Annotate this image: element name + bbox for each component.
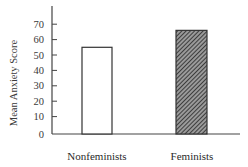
bar-feminists — [176, 30, 207, 134]
category-label-feminists: Feminists — [171, 150, 214, 162]
category-labels: NonfeministsFeminists — [67, 150, 213, 162]
category-label-nonfeminists: Nonfeminists — [67, 150, 126, 162]
y-axis-label: Mean Anxiety Score — [8, 40, 19, 127]
bars — [82, 30, 207, 134]
y-tick-label: 20 — [34, 96, 45, 107]
bar-chart: Mean Anxiety Score 010203040506070 Nonfe… — [0, 0, 248, 167]
y-tick-label: 40 — [34, 65, 45, 76]
y-tick-label: 50 — [34, 50, 45, 61]
bar-nonfeminists — [82, 47, 112, 134]
y-axis-ticks: 010203040506070 — [34, 19, 58, 140]
y-tick-label: 70 — [34, 19, 45, 30]
y-tick-label: 60 — [34, 34, 45, 45]
y-tick-label: 30 — [34, 80, 45, 91]
y-tick-label: 10 — [34, 111, 45, 122]
y-tick-label: 0 — [39, 129, 44, 140]
